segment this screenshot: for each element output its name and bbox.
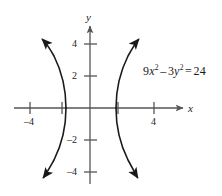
y-axis-label: y xyxy=(86,12,91,23)
x-axis xyxy=(14,102,183,114)
y-tick-label-neg4: –4 xyxy=(67,167,77,177)
right-branch-upper xyxy=(116,40,139,109)
plot-canvas xyxy=(0,0,222,196)
y-tick-label-neg2: –2 xyxy=(67,135,77,145)
x-tick-label-neg4: –4 xyxy=(24,117,34,127)
y-axis xyxy=(84,26,97,184)
x-axis-label: x xyxy=(188,103,193,114)
right-branch-lower xyxy=(116,108,138,178)
left-branch-lower xyxy=(44,108,67,178)
x-tick-label-pos4: 4 xyxy=(151,117,156,127)
equation-equals: = xyxy=(184,64,194,78)
equation-exp2: 2 xyxy=(180,63,184,72)
equation-rhs: 24 xyxy=(194,64,206,78)
y-tick-label-pos4: 4 xyxy=(72,39,77,49)
left-branch-upper xyxy=(43,40,67,109)
y-tick-label-pos2: 2 xyxy=(72,71,77,81)
hyperbola-figure: x y –4 4 4 2 –2 –4 9x2–3y2=24 xyxy=(0,0,222,196)
equation-operator: – xyxy=(159,64,168,78)
equation-annotation: 9x2–3y2=24 xyxy=(143,65,206,77)
